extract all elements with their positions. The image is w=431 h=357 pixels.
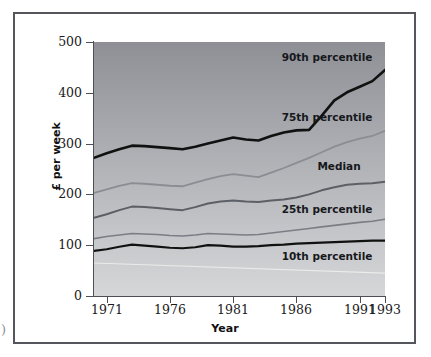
y-tick-label: 500 [36,36,82,48]
y-tick [86,93,93,94]
x-tick-label: 1976 [147,303,193,317]
series-label-3: 25th percentile [282,203,373,215]
series-label-2: Median [317,160,360,172]
x-tick-label: 1971 [84,303,130,317]
series-label-0: 90th percentile [282,51,373,63]
series-label-1: 75th percentile [282,111,373,123]
x-tick-label: 1993 [362,303,408,317]
chart-figure: ) 01002003004005001971197619811986199119… [0,0,431,357]
x-tick-label: 1986 [273,303,319,317]
x-axis-title: Year [165,322,285,335]
x-axis-line [93,296,386,297]
y-tick-label: 0 [36,290,82,302]
x-tick-label: 1981 [210,303,256,317]
y-tick [86,245,93,246]
y-axis-title: £ per week [50,97,63,217]
series-label-4: 10th percentile [282,250,373,262]
y-tick-label: 100 [36,239,82,251]
y-tick [86,296,93,297]
y-tick [86,194,93,195]
y-axis-line [93,41,94,297]
y-tick [86,144,93,145]
y-tick [86,42,93,43]
cut-off-glyph: ) [1,322,11,338]
